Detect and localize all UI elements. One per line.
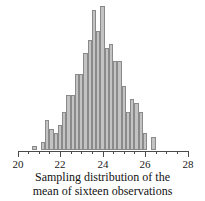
x-axis-tick-label: 24 — [91, 158, 115, 170]
x-axis-major-tick — [145, 151, 146, 157]
x-axis: 2022242628 — [0, 150, 205, 166]
x-axis-major-tick — [18, 151, 19, 157]
caption-line-1: Sampling distribution of the — [0, 170, 205, 184]
x-axis-major-tick — [188, 151, 189, 157]
x-axis-minor-tick — [177, 151, 178, 154]
x-axis-minor-tick — [49, 151, 50, 154]
histogram-figure: 2022242628 Sampling distribution of the … — [0, 0, 205, 201]
figure-caption: Sampling distribution of the mean of six… — [0, 170, 205, 198]
plot-area — [0, 0, 205, 152]
x-axis-tick-label: 20 — [6, 158, 30, 170]
x-axis-minor-tick — [92, 151, 93, 154]
x-axis-tick-label: 26 — [133, 158, 157, 170]
x-axis-major-tick — [103, 151, 104, 157]
x-axis-minor-tick — [134, 151, 135, 154]
histogram-bar — [143, 133, 147, 150]
x-axis-minor-tick — [71, 151, 72, 154]
x-axis-minor-tick — [156, 151, 157, 154]
x-axis-minor-tick — [124, 151, 125, 154]
x-axis-minor-tick — [113, 151, 114, 154]
x-axis-tick-label: 28 — [176, 158, 200, 170]
histogram-bar — [151, 137, 155, 150]
x-axis-minor-tick — [39, 151, 40, 154]
caption-line-2: mean of sixteen observations — [0, 184, 205, 198]
x-axis-tick-label: 22 — [48, 158, 72, 170]
x-axis-major-tick — [60, 151, 61, 157]
x-axis-minor-tick — [28, 151, 29, 154]
x-axis-minor-tick — [81, 151, 82, 154]
x-axis-minor-tick — [166, 151, 167, 154]
